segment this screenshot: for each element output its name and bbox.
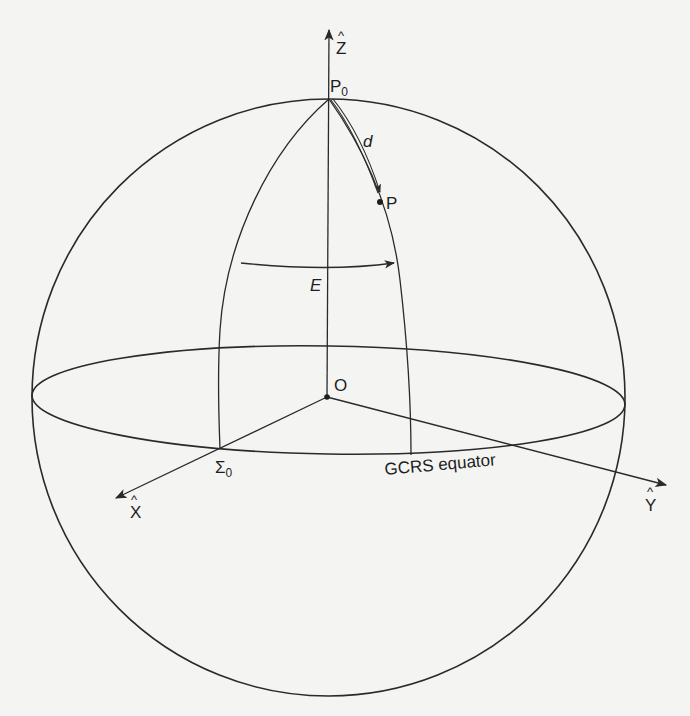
gcrs-equator xyxy=(31,341,626,458)
origin-label: O xyxy=(334,376,347,395)
y-axis-label: Y xyxy=(645,496,656,515)
meridian-sigma0 xyxy=(218,99,329,449)
meridian-p xyxy=(329,99,411,455)
point-p-dot xyxy=(377,199,383,205)
sigma0-label: Σ0 xyxy=(215,458,233,480)
pole-point-label: P0 xyxy=(330,77,348,99)
point-p-label: P xyxy=(386,194,397,213)
z-axis xyxy=(327,30,329,397)
origin-dot xyxy=(324,394,330,400)
celestial-sphere-diagram: ^ Z P0 d P E O Σ0 GCRS equator ^ X ^ Y xyxy=(0,0,690,716)
x-axis-label: X xyxy=(130,503,141,522)
angle-e-label: E xyxy=(310,276,322,295)
z-axis-label: Z xyxy=(336,39,346,58)
equator-label: GCRS equator xyxy=(384,450,497,479)
arc-distance-label: d xyxy=(363,132,373,151)
y-axis xyxy=(327,397,666,485)
angle-e-arc xyxy=(241,263,394,268)
x-axis xyxy=(116,397,327,498)
